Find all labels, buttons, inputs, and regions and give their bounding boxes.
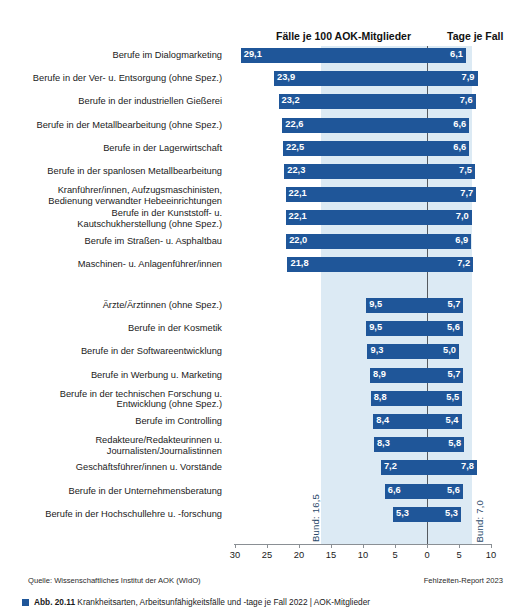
row-category-label: Kranführer/innen, Aufzugsmaschinisten, B… xyxy=(0,185,222,206)
cases-bar: 23,9 xyxy=(274,71,427,86)
chart-row: Berufe im Dialogmarketing29,16,1 xyxy=(0,48,531,66)
cases-bar: 8,8 xyxy=(371,391,427,406)
cases-value-label: 9,3 xyxy=(370,345,383,355)
cases-value-label: 22,1 xyxy=(289,211,307,221)
row-category-label: Berufe in Werbung u. Marketing xyxy=(0,370,222,381)
cases-bar: 9,3 xyxy=(367,344,427,359)
days-value-label: 6,9 xyxy=(455,235,468,245)
axis-tick-label: 5 xyxy=(392,550,397,560)
days-column-header: Tage je Fall xyxy=(447,30,503,46)
cases-bar: 21,8 xyxy=(287,257,427,272)
chart-row: Ärzte/Ärztinnen (ohne Spez.)9,55,7 xyxy=(0,298,531,316)
cases-column-header: Fälle je 100 AOK-Mitglieder xyxy=(276,30,411,46)
report-note: Fehlzeiten-Report 2023 xyxy=(424,576,503,585)
axis-tick-label: 0 xyxy=(424,550,429,560)
axis-tick xyxy=(267,544,268,548)
axis-tick xyxy=(491,544,492,548)
axis-tick-label: 25 xyxy=(262,550,272,560)
chart-row: Kranführer/innen, Aufzugsmaschinisten, B… xyxy=(0,187,531,205)
row-category-label: Berufe im Straßen- u. Asphaltbau xyxy=(0,236,222,247)
cases-value-label: 29,1 xyxy=(244,49,262,59)
row-category-label: Maschinen- u. Anlagenführer/innen xyxy=(0,259,222,270)
cases-bar: 23,2 xyxy=(279,94,427,109)
cases-bar: 22,3 xyxy=(284,164,427,179)
days-bar: 5,7 xyxy=(427,298,463,313)
days-value-label: 7,8 xyxy=(461,461,474,471)
cases-value-label: 8,9 xyxy=(373,369,386,379)
axis-tick-label: 10 xyxy=(486,550,496,560)
days-bar: 6,9 xyxy=(427,234,471,249)
row-category-label: Geschäftsführer/innen u. Vorstände xyxy=(0,462,222,473)
days-value-label: 5,7 xyxy=(448,369,461,379)
days-bar: 7,0 xyxy=(427,210,472,225)
days-value-label: 7,6 xyxy=(460,95,473,105)
chart-row: Berufe in der spanlosen Metallbearbeitun… xyxy=(0,164,531,182)
days-value-label: 5,3 xyxy=(445,508,458,518)
days-value-label: 7,0 xyxy=(456,211,469,221)
cases-value-label: 22,3 xyxy=(287,165,305,175)
chart-row: Berufe in der technischen Forschung u. E… xyxy=(0,391,531,409)
days-value-label: 5,5 xyxy=(446,392,459,402)
chart-row: Geschäftsführer/innen u. Vorstände7,27,8 xyxy=(0,460,531,478)
days-bar: 6,6 xyxy=(427,141,469,156)
cases-bar: 8,3 xyxy=(374,437,427,452)
chart-row: Berufe in der Lagerwirtschaft22,56,6 xyxy=(0,141,531,159)
days-value-label: 6,6 xyxy=(453,142,466,152)
chart-row: Berufe in der Metallbearbeitung (ohne Sp… xyxy=(0,118,531,136)
axis-tick xyxy=(331,544,332,548)
days-bar: 5,6 xyxy=(427,321,463,336)
chart-row: Maschinen- u. Anlagenführer/innen21,87,2 xyxy=(0,257,531,275)
row-category-label: Berufe in der Metallbearbeitung (ohne Sp… xyxy=(0,120,222,131)
caption-number: Abb. 20.11 xyxy=(34,597,75,607)
chart-row: Berufe in der Hochschullehre u. -forschu… xyxy=(0,507,531,525)
cases-bar: 8,4 xyxy=(373,414,427,429)
caption-marker-icon xyxy=(22,599,29,606)
cases-value-label: 21,8 xyxy=(290,258,308,268)
row-category-label: Berufe in der spanlosen Metallbearbeitun… xyxy=(0,166,222,177)
days-bar: 7,2 xyxy=(427,257,473,272)
days-value-label: 5,4 xyxy=(446,415,459,425)
cases-value-label: 9,5 xyxy=(369,299,382,309)
row-category-label: Berufe in der Ver- u. Entsorgung (ohne S… xyxy=(0,73,222,84)
cases-bar: 5,3 xyxy=(393,507,427,522)
days-bar: 5,3 xyxy=(427,507,461,522)
row-category-label: Berufe in der Kunststoff- u. Kautschukhe… xyxy=(0,208,222,229)
days-value-label: 5,8 xyxy=(448,438,461,448)
cases-value-label: 5,3 xyxy=(396,508,409,518)
axis-tick-label: 15 xyxy=(326,550,336,560)
days-bar: 7,5 xyxy=(427,164,475,179)
cases-bar: 9,5 xyxy=(366,298,427,313)
chart-row: Berufe im Controlling8,45,4 xyxy=(0,414,531,432)
axis-tick-label: 10 xyxy=(358,550,368,560)
days-value-label: 5,7 xyxy=(448,299,461,309)
days-value-label: 7,7 xyxy=(460,188,473,198)
days-bar: 5,6 xyxy=(427,484,463,499)
row-category-label: Berufe im Controlling xyxy=(0,416,222,427)
chart-row: Berufe in der industriellen Gießerei23,2… xyxy=(0,94,531,112)
row-category-label: Berufe in der Hochschullehre u. -forschu… xyxy=(0,509,222,520)
days-value-label: 6,1 xyxy=(450,49,463,59)
chart-row: Berufe in der Kunststoff- u. Kautschukhe… xyxy=(0,210,531,228)
days-value-label: 6,6 xyxy=(453,119,466,129)
chart-row: Redakteure/Redakteurinnen u. Journaliste… xyxy=(0,437,531,455)
chart-row: Berufe in Werbung u. Marketing8,95,7 xyxy=(0,368,531,386)
days-value-label: 7,2 xyxy=(457,258,470,268)
days-bar: 5,8 xyxy=(427,437,464,452)
cases-value-label: 22,1 xyxy=(289,188,307,198)
days-value-label: 5,6 xyxy=(447,485,460,495)
days-value-label: 5,0 xyxy=(443,345,456,355)
cases-bar: 6,6 xyxy=(385,484,427,499)
days-bar: 7,6 xyxy=(427,94,476,109)
cases-value-label: 6,6 xyxy=(388,485,401,495)
cases-value-label: 22,5 xyxy=(286,142,304,152)
cases-value-label: 9,5 xyxy=(369,322,382,332)
figure-caption: Abb. 20.11 Krankheitsarten, Arbeitsunfäh… xyxy=(22,597,370,607)
row-category-label: Berufe in der Lagerwirtschaft xyxy=(0,143,222,154)
days-bar: 7,7 xyxy=(427,187,476,202)
axis-tick xyxy=(395,544,396,548)
row-category-label: Berufe in der industriellen Gießerei xyxy=(0,96,222,107)
row-category-label: Redakteure/Redakteurinnen u. Journaliste… xyxy=(0,435,222,456)
cases-value-label: 7,2 xyxy=(384,461,397,471)
days-bar: 7,9 xyxy=(427,71,478,86)
chart-row: Berufe in der Softwareentwicklung9,35,0 xyxy=(0,344,531,362)
